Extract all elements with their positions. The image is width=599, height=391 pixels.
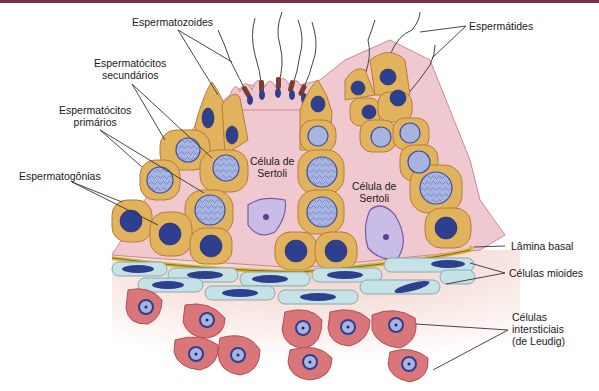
seminiferous-epithelium-illustration (0, 0, 599, 391)
label-celulas-intersticiais: Células intersticiais (de Leudig) (512, 311, 565, 347)
label-espermatogonias: Espermatogônias (19, 170, 101, 182)
label-celula-sertoli-2: Célula de Sertoli (352, 180, 396, 204)
label-lamina-basal: Lâmina basal (511, 240, 573, 252)
label-espermatocitos-secundarios: Espermatócitos secundários (94, 57, 166, 81)
label-espermatides: Espermátides (469, 20, 533, 32)
label-espermatozoides: Espermatozoides (132, 16, 213, 28)
label-espermatocitos-primarios: Espermatócitos primários (59, 104, 131, 128)
label-celula-sertoli-1: Célula de Sertoli (250, 155, 294, 179)
label-celulas-mioides: Células mioides (509, 267, 583, 279)
